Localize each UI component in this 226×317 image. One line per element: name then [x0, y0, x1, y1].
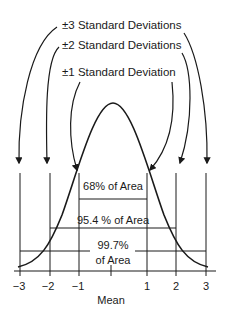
tick-plus2: 2: [173, 280, 179, 292]
arrow-minus2: [46, 47, 59, 163]
area-label-954: 95.4 % of Area: [77, 214, 150, 226]
arrow-minus3: [19, 27, 57, 163]
arrow-plus1: [150, 82, 173, 170]
label-sd1: ±1 Standard Deviation: [62, 66, 176, 78]
normal-distribution-diagram: ±3 Standard Deviations ±2 Standard Devia…: [0, 0, 226, 317]
tick-minus2: −2: [42, 280, 55, 292]
arrow-plus3: [184, 33, 207, 163]
area-label-997-line1: 99.7%: [97, 239, 128, 251]
tick-minus3: −3: [13, 280, 26, 292]
tick-minus1: −1: [72, 280, 85, 292]
tick-plus3: 3: [203, 280, 209, 292]
mean-label: Mean: [97, 294, 125, 306]
arrow-plus2: [180, 53, 190, 163]
label-sd2: ±2 Standard Deviations: [62, 39, 182, 51]
arrow-minus1: [71, 82, 80, 170]
tick-plus1: 1: [144, 280, 150, 292]
area-label-68: 68% of Area: [83, 180, 144, 192]
label-sd3: ±3 Standard Deviations: [62, 19, 182, 31]
area-label-997-line2: of Area: [96, 254, 132, 266]
